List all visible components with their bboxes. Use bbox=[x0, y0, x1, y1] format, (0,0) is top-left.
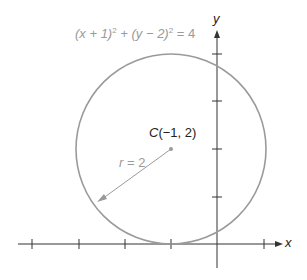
y-axis-arrow-icon bbox=[214, 30, 220, 38]
center-label: C(−1, 2) bbox=[149, 126, 196, 139]
radius-arrow-icon bbox=[97, 194, 107, 202]
x-axis-label: x bbox=[285, 236, 292, 249]
circle-equation: (x + 1)2 + (y − 2)2 = 4 bbox=[75, 27, 195, 40]
center-point bbox=[169, 147, 173, 151]
x-axis-arrow-icon bbox=[275, 241, 283, 247]
radius-label: r = 2 bbox=[119, 156, 145, 169]
x-axis bbox=[18, 239, 283, 249]
y-axis-label: y bbox=[213, 12, 220, 25]
circle-diagram bbox=[0, 0, 307, 280]
